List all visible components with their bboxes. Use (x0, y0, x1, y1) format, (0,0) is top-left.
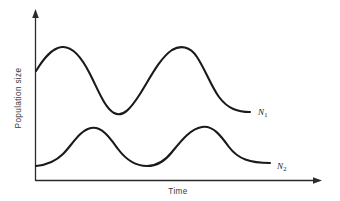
population-oscillation-chart: Population size Time N1 N2 (0, 0, 340, 201)
x-axis (36, 177, 323, 184)
x-axis-arrow-icon (313, 177, 322, 184)
y-axis (32, 9, 39, 181)
series-label-n2-subscript: 2 (283, 165, 286, 172)
y-axis-label: Population size (14, 68, 23, 129)
series-curve-n1 (36, 47, 250, 114)
series-label-n1-subscript: 1 (264, 111, 267, 118)
chart-plot-area (0, 0, 340, 201)
series-curve-n2 (36, 127, 270, 166)
series-label-n2: N2 (277, 161, 286, 171)
y-axis-arrow-icon (32, 9, 39, 18)
series-label-n1: N1 (258, 107, 267, 117)
x-axis-label: Time (168, 187, 187, 196)
